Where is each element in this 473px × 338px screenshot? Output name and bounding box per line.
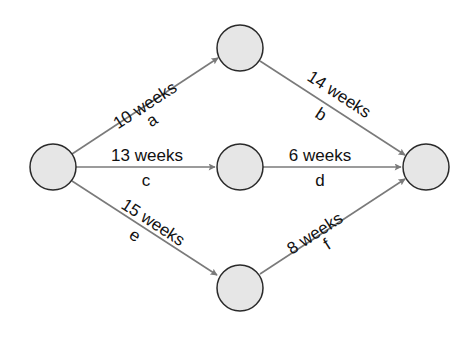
edge-a-duration: 10 weeks bbox=[110, 78, 181, 133]
activity-network-diagram: 10 weeks a 14 weeks b 13 weeks c 6 weeks… bbox=[0, 0, 473, 338]
node-top bbox=[217, 25, 263, 71]
edge-d-letter: d bbox=[315, 171, 324, 190]
edge-b-duration: 14 weeks bbox=[304, 67, 375, 122]
edge-a-letter: a bbox=[143, 110, 162, 131]
edge-c-duration: 13 weeks bbox=[111, 146, 183, 165]
edge-f-duration: 8 weeks bbox=[284, 208, 347, 258]
edge-d-duration: 6 weeks bbox=[289, 146, 351, 165]
edge-e-letter: e bbox=[126, 225, 144, 246]
node-bottom bbox=[217, 265, 263, 311]
node-end bbox=[403, 144, 449, 190]
edge-c-letter: c bbox=[142, 171, 151, 190]
node-middle bbox=[217, 144, 263, 190]
edge-b bbox=[260, 61, 405, 155]
edge-f-letter: f bbox=[320, 235, 335, 254]
node-start bbox=[30, 144, 76, 190]
edge-b-letter: b bbox=[312, 104, 330, 125]
